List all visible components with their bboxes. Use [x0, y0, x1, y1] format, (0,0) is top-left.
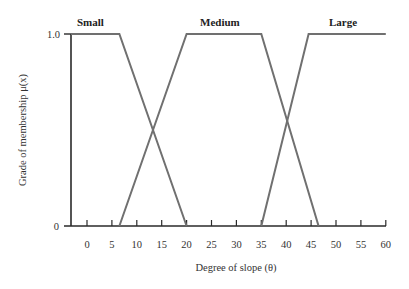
x-tick-label: 60 — [381, 239, 392, 250]
y-tick-label-top: 1.0 — [47, 29, 60, 40]
x-tick-label: 50 — [331, 239, 342, 250]
y-axis-title: Grade of membership μ(x) — [17, 73, 29, 186]
set-label-small: Small — [77, 16, 104, 28]
x-tick-label: 35 — [256, 239, 267, 250]
membership-series — [71, 34, 386, 226]
x-tick-label: 5 — [109, 239, 114, 250]
x-axis-title: Degree of slope (θ) — [195, 262, 277, 274]
x-tick-label: 30 — [231, 239, 242, 250]
x-tick-label: 0 — [84, 239, 89, 250]
x-tick-label: 25 — [206, 239, 217, 250]
y-tick-label-bottom: 0 — [54, 221, 59, 232]
x-tick-label: 15 — [156, 239, 167, 250]
x-ticks: 051015202530354045505560 — [84, 220, 391, 250]
series-medium — [119, 34, 318, 226]
set-label-medium: Medium — [200, 16, 240, 28]
x-tick-label: 55 — [356, 239, 367, 250]
axes — [64, 34, 386, 226]
x-tick-label: 45 — [306, 239, 317, 250]
set-label-large: Large — [329, 16, 357, 28]
x-tick-label: 40 — [281, 239, 292, 250]
x-tick-label: 10 — [132, 239, 143, 250]
x-tick-label: 20 — [181, 239, 192, 250]
series-large — [261, 34, 386, 226]
fuzzy-membership-chart: 051015202530354045505560 1.0 0 Small Med… — [0, 0, 409, 289]
